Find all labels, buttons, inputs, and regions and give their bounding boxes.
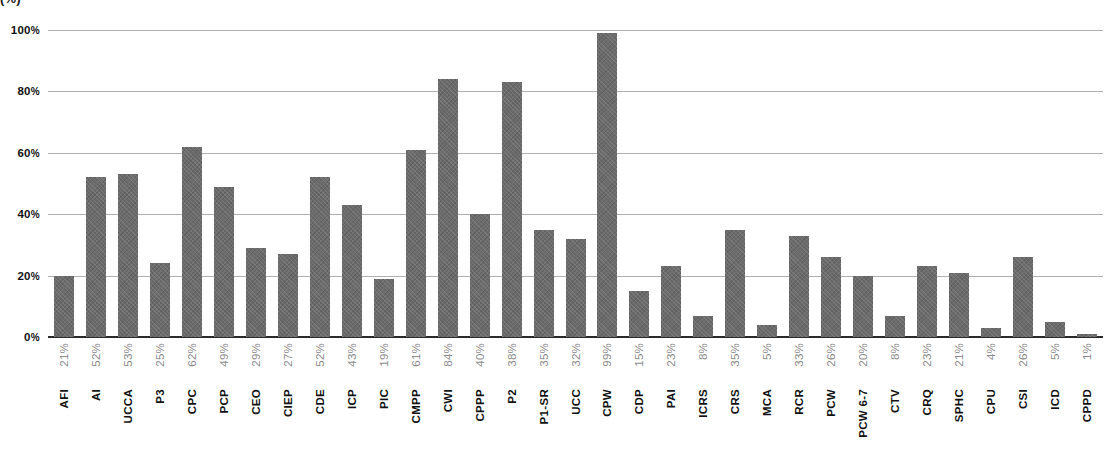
bar (981, 328, 1001, 337)
chart-title: (%) (0, 0, 1109, 7)
bar-value-label: 23% (665, 343, 677, 367)
bar (54, 276, 74, 337)
bar-value-label: 84% (442, 343, 454, 367)
bar-value-label: 35% (729, 343, 741, 367)
x-axis-category-label: UCC (570, 389, 582, 415)
bar (342, 205, 362, 337)
x-axis-label-column: 5%MCA (757, 341, 777, 467)
bar (885, 316, 905, 337)
x-axis-category-label: CIEP (282, 389, 294, 417)
x-axis-label-column: 62%CPC (182, 341, 202, 467)
x-axis-category-label: PAI (665, 389, 677, 408)
x-axis-label-stacks: 21%AFI52%AI53%UCCA25%P362%CPC49%PCP29%CE… (48, 341, 1103, 467)
y-axis-tick-label: 100% (11, 24, 40, 36)
x-axis-category-label: AI (90, 389, 102, 401)
x-axis-label-column: 35%CRS (725, 341, 745, 467)
bar (182, 147, 202, 337)
bar-value-label: 4% (985, 343, 997, 360)
x-axis-label-column: 1%CPPD (1077, 341, 1097, 467)
x-axis-category-label: CSI (1017, 389, 1029, 409)
bar (949, 273, 969, 337)
x-axis-category-label: CRQ (921, 389, 933, 415)
bar-value-label: 35% (538, 343, 550, 367)
bar (566, 239, 586, 337)
bar-value-label: 53% (122, 343, 134, 367)
x-axis-label-column: 52%AI (86, 341, 106, 467)
bar-value-label: 19% (378, 343, 390, 367)
y-axis-tick-label: 40% (17, 208, 40, 220)
x-axis-label-column: 53%UCCA (118, 341, 138, 467)
bar-value-label: 40% (474, 343, 486, 367)
x-axis-category-label: CPPP (474, 389, 486, 422)
bar (534, 230, 554, 337)
y-axis-tick-label: 20% (17, 270, 40, 282)
x-axis-label-column: 43%ICP (342, 341, 362, 467)
bar (757, 325, 777, 337)
bar (150, 263, 170, 337)
bar-value-label: 1% (1081, 343, 1093, 360)
x-axis-category-label: CMPP (410, 389, 422, 423)
y-axis-tick-label: 0% (24, 331, 40, 343)
bar-value-label: 26% (1017, 343, 1029, 367)
bar-value-label: 23% (921, 343, 933, 367)
bar (310, 177, 330, 337)
bar (374, 279, 394, 337)
x-axis-category-label: SPHC (953, 389, 965, 422)
x-axis-label-column: 49%PCP (214, 341, 234, 467)
x-axis-label-column: 21%SPHC (949, 341, 969, 467)
bar-value-label: 62% (186, 343, 198, 367)
x-axis-category-label: CDE (314, 389, 326, 414)
x-axis-category-label: CTV (889, 389, 901, 413)
bar-value-label: 25% (154, 343, 166, 367)
x-axis-category-label: CPC (186, 389, 198, 414)
bar (1077, 334, 1097, 337)
x-axis-label-column: 38%P2 (502, 341, 522, 467)
bars-layer (48, 30, 1103, 337)
x-axis-category-label: CPU (985, 389, 997, 414)
bar (502, 82, 522, 337)
x-axis-label-column: 40%CPPP (470, 341, 490, 467)
x-axis-label-column: 8%CTV (885, 341, 905, 467)
bar-value-label: 61% (410, 343, 422, 367)
bar (789, 236, 809, 337)
x-axis-category-label: MCA (761, 389, 773, 416)
x-axis-category-label: P3 (154, 389, 166, 404)
x-axis-category-label: P1-SR (538, 389, 550, 424)
x-axis-category-label: CRS (729, 389, 741, 414)
x-axis-label-column: 15%CDP (629, 341, 649, 467)
x-axis-category-label: CPW (601, 389, 613, 417)
bar-value-label: 32% (570, 343, 582, 367)
x-axis-label-column: 8%ICRS (693, 341, 713, 467)
x-axis-label-column: 33%RCR (789, 341, 809, 467)
y-axis-tick-label: 80% (17, 85, 40, 97)
x-axis-label-column: 29%CEO (246, 341, 266, 467)
x-axis-category-label: AFI (58, 389, 70, 408)
bar (406, 150, 426, 337)
bar (86, 177, 106, 337)
x-axis-label-column: 23%CRQ (917, 341, 937, 467)
y-axis-tick-labels: 0%20%40%60%80%100% (0, 30, 44, 337)
bar-value-label: 15% (633, 343, 645, 367)
x-axis-label-column: 26%CSI (1013, 341, 1033, 467)
bar (438, 79, 458, 337)
bar (278, 254, 298, 337)
bar (661, 266, 681, 337)
x-axis-label-column: 32%UCC (566, 341, 586, 467)
bar-value-label: 21% (953, 343, 965, 367)
bar-value-label: 8% (889, 343, 901, 360)
bar-value-label: 5% (761, 343, 773, 360)
bar-value-label: 20% (857, 343, 869, 367)
bar-chart: (%) 0%20%40%60%80%100% 21%AFI52%AI53%UCC… (0, 0, 1109, 467)
x-axis-category-label: PCW 6-7 (857, 389, 869, 438)
bar (597, 33, 617, 337)
x-axis-category-label: P2 (506, 389, 518, 404)
bar-value-label: 99% (601, 343, 613, 367)
x-axis-label-column: 26%PCW (821, 341, 841, 467)
bar (853, 276, 873, 337)
x-axis-category-label: CEO (250, 389, 262, 415)
x-axis-category-label: CWI (442, 389, 454, 412)
x-axis-label-column: 20%PCW 6-7 (853, 341, 873, 467)
bar-value-label: 38% (506, 343, 518, 367)
bar-value-label: 29% (250, 343, 262, 367)
x-axis-label-column: 19%PIC (374, 341, 394, 467)
